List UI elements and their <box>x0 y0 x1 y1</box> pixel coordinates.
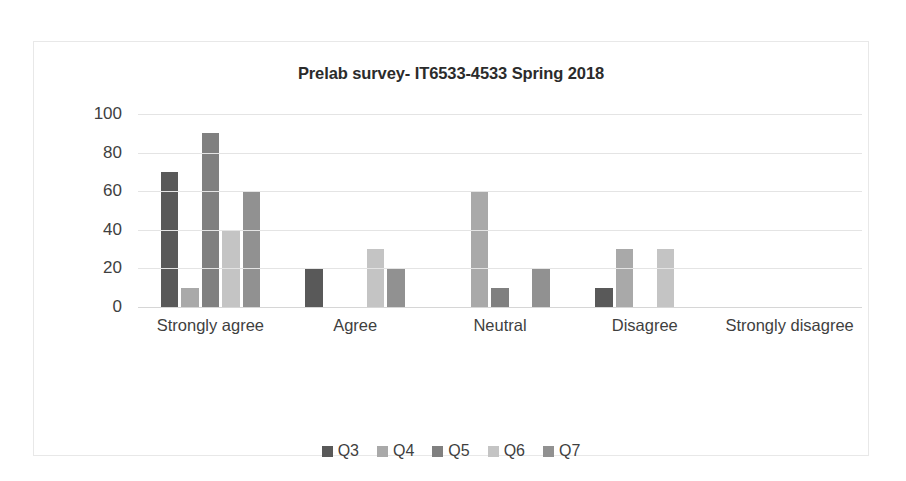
bar[interactable] <box>181 288 199 307</box>
x-axis-labels: Strongly agreeAgreeNeutralDisagreeStrong… <box>138 314 862 336</box>
bar[interactable] <box>243 191 261 307</box>
bar-slot <box>202 114 220 307</box>
bar[interactable] <box>657 249 675 307</box>
gridline <box>138 268 862 269</box>
bar[interactable] <box>491 288 509 307</box>
plot-area <box>138 114 862 307</box>
y-axis-tick-label: 80 <box>103 143 122 163</box>
gridline <box>138 230 862 231</box>
x-axis-category-label: Strongly disagree <box>717 314 862 336</box>
x-axis-category-label: Strongly agree <box>138 314 283 336</box>
legend-label: Q6 <box>504 442 525 460</box>
bar-slot <box>346 114 364 307</box>
bar-slot <box>677 114 695 307</box>
bar-slot <box>512 114 530 307</box>
legend-label: Q3 <box>338 442 359 460</box>
bar-slot <box>471 114 489 307</box>
bar-slot <box>161 114 179 307</box>
y-axis: 100806040200 <box>86 114 130 307</box>
bar-slot <box>181 114 199 307</box>
gridline <box>138 114 862 115</box>
bar[interactable] <box>305 268 323 307</box>
y-axis-tick-label: 60 <box>103 181 122 201</box>
y-axis-tick-label: 0 <box>113 297 122 317</box>
y-axis-tick-label: 100 <box>94 104 122 124</box>
bar[interactable] <box>367 249 385 307</box>
bar-slot <box>822 114 840 307</box>
bar-group <box>717 114 862 307</box>
x-axis-category-label: Agree <box>283 314 428 336</box>
bar-slot <box>740 114 758 307</box>
legend-item[interactable]: Q7 <box>543 442 580 460</box>
bar-slot <box>532 114 550 307</box>
legend-label: Q7 <box>559 442 580 460</box>
bar-slot <box>450 114 468 307</box>
gridline <box>138 191 862 192</box>
bar-group <box>572 114 717 307</box>
bar[interactable] <box>387 268 405 307</box>
bar-slot <box>636 114 654 307</box>
bar-slot <box>781 114 799 307</box>
bar[interactable] <box>616 249 634 307</box>
bar-group <box>428 114 573 307</box>
bar[interactable] <box>595 288 613 307</box>
bar-group <box>283 114 428 307</box>
legend-item[interactable]: Q5 <box>432 442 469 460</box>
legend-label: Q4 <box>393 442 414 460</box>
bar-slot <box>222 114 240 307</box>
bar-slot <box>657 114 675 307</box>
legend-swatch-icon <box>488 446 499 457</box>
bar[interactable] <box>202 133 220 307</box>
gridline <box>138 153 862 154</box>
x-axis-category-label: Neutral <box>428 314 573 336</box>
legend-swatch-icon <box>543 446 554 457</box>
bar-slot <box>616 114 634 307</box>
bar-slot <box>243 114 261 307</box>
axis-baseline <box>138 307 862 308</box>
legend-item[interactable]: Q3 <box>322 442 359 460</box>
bar-slot <box>491 114 509 307</box>
y-axis-tick-label: 40 <box>103 220 122 240</box>
bar-groups <box>138 114 862 307</box>
bar-slot <box>760 114 778 307</box>
legend-item[interactable]: Q6 <box>488 442 525 460</box>
bar-slot <box>367 114 385 307</box>
bar-slot <box>305 114 323 307</box>
bar-slot <box>387 114 405 307</box>
chart-title: Prelab survey- IT6533-4533 Spring 2018 <box>34 64 868 83</box>
chart-frame: Prelab survey- IT6533-4533 Spring 2018 1… <box>33 41 869 456</box>
plot-wrapper: 100806040200 Strongly agreeAgreeNeutralD… <box>86 114 862 354</box>
bar-slot <box>326 114 344 307</box>
legend-swatch-icon <box>432 446 443 457</box>
bar[interactable] <box>532 268 550 307</box>
y-axis-tick-label: 20 <box>103 258 122 278</box>
legend-label: Q5 <box>448 442 469 460</box>
bar-slot <box>801 114 819 307</box>
legend-swatch-icon <box>377 446 388 457</box>
legend-item[interactable]: Q4 <box>377 442 414 460</box>
bar[interactable] <box>471 191 489 307</box>
x-axis-category-label: Disagree <box>572 314 717 336</box>
bar-slot <box>595 114 613 307</box>
legend-swatch-icon <box>322 446 333 457</box>
chart-legend: Q3Q4Q5Q6Q7 <box>34 442 868 460</box>
bar-group <box>138 114 283 307</box>
